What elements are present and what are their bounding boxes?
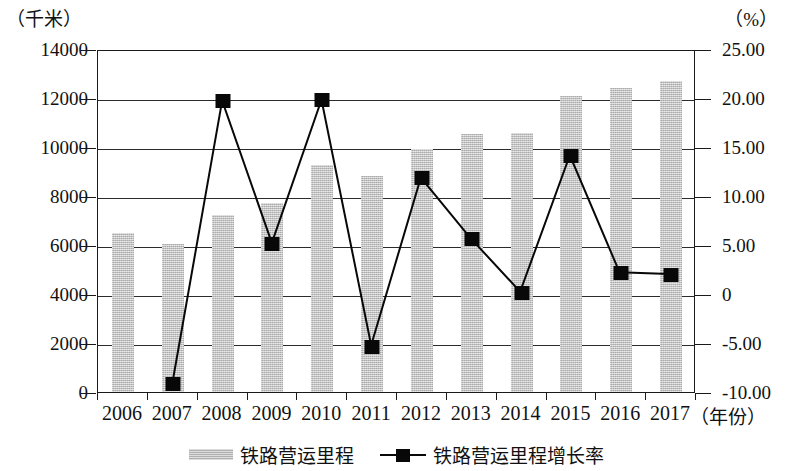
bar <box>560 96 582 392</box>
plot-area <box>97 50 695 393</box>
right-axis-tick-mark <box>695 344 711 345</box>
data-point-marker <box>165 377 180 391</box>
legend-label: 铁路营运里程 <box>240 441 354 468</box>
data-point-marker <box>365 340 380 354</box>
right-axis-tick: 20.00 <box>722 89 765 108</box>
x-axis-tick-mark <box>396 393 397 400</box>
right-axis-tick: -10.00 <box>722 383 771 402</box>
data-point-marker <box>315 93 330 107</box>
bar <box>162 244 184 392</box>
bar <box>660 81 682 392</box>
chart-legend: 铁路营运里程铁路营运里程增长率 <box>0 441 792 468</box>
bar <box>610 88 632 392</box>
data-point-marker <box>215 94 230 108</box>
right-axis-tick: 5.00 <box>722 236 755 255</box>
left-axis-tick: 6000 <box>8 236 88 255</box>
x-axis-label: 2016 <box>600 402 640 425</box>
x-axis-label: 2008 <box>202 402 242 425</box>
data-point-marker <box>414 171 429 185</box>
left-axis-tick-mark <box>81 50 96 51</box>
x-axis-tick-mark <box>546 393 547 400</box>
x-axis-tick-mark <box>496 393 497 400</box>
bar <box>261 203 283 392</box>
left-axis-tick: 0 <box>8 383 88 402</box>
x-axis-labels: 2006200720082009201020112012201320142015… <box>0 402 792 432</box>
right-axis-tick-mark <box>695 197 711 198</box>
x-axis-tick-mark <box>97 393 98 400</box>
x-axis-label: 2013 <box>451 402 491 425</box>
x-axis-label: 2012 <box>401 402 441 425</box>
left-axis-tick-mark <box>81 197 96 198</box>
left-axis-tick-mark <box>81 148 96 149</box>
x-axis-label: 2015 <box>550 402 590 425</box>
left-axis-tick: 14000 <box>8 40 88 59</box>
data-point-marker <box>464 232 479 246</box>
left-axis-tick: 2000 <box>8 334 88 353</box>
x-axis-tick-mark <box>346 393 347 400</box>
x-axis-tick-mark <box>595 393 596 400</box>
left-axis-tick-mark <box>81 393 96 394</box>
bar-series <box>98 51 694 392</box>
left-axis-tick: 10000 <box>8 138 88 157</box>
x-axis-unit-label: （年份） <box>690 402 766 429</box>
right-axis-tick-mark <box>695 50 711 51</box>
bar <box>212 215 234 392</box>
railway-mileage-chart: （千米） （%） 0200040006000800010000120001400… <box>0 0 792 471</box>
data-point-marker <box>664 268 679 282</box>
right-axis-tick-labels: -10.00-5.0005.0010.0015.0020.0025.00 <box>700 0 792 471</box>
x-axis-label: 2007 <box>152 402 192 425</box>
right-axis-tick-mark <box>695 393 711 394</box>
x-axis-tick-mark <box>645 393 646 400</box>
left-axis-tick-mark <box>81 246 96 247</box>
x-axis-tick-mark <box>695 393 696 400</box>
legend-bar-swatch-icon <box>189 449 233 460</box>
legend-line-marker-icon <box>380 448 426 462</box>
x-axis-tick-mark <box>247 393 248 400</box>
left-axis-tick-mark <box>81 344 96 345</box>
x-axis-label: 2014 <box>501 402 541 425</box>
x-axis-label: 2009 <box>251 402 291 425</box>
x-axis-label: 2006 <box>102 402 142 425</box>
x-axis-tick-mark <box>296 393 297 400</box>
right-axis-tick: -5.00 <box>722 334 762 353</box>
right-axis-tick: 10.00 <box>722 187 765 206</box>
legend-label: 铁路营运里程增长率 <box>433 441 604 468</box>
left-axis-tick-mark <box>81 295 96 296</box>
bar <box>112 233 134 392</box>
right-axis-tick: 15.00 <box>722 138 765 157</box>
data-point-marker <box>265 237 280 251</box>
legend-item[interactable]: 铁路营运里程增长率 <box>380 441 604 468</box>
legend-item[interactable]: 铁路营运里程 <box>189 441 354 468</box>
x-axis-label: 2010 <box>301 402 341 425</box>
right-axis-tick-mark <box>695 295 711 296</box>
left-axis-tick-mark <box>81 99 96 100</box>
left-axis-tick: 12000 <box>8 89 88 108</box>
bar <box>361 176 383 392</box>
data-point-marker <box>564 149 579 163</box>
x-axis-label: 2011 <box>351 402 390 425</box>
left-axis-tick-labels: 02000400060008000100001200014000 <box>0 0 88 471</box>
left-axis-tick: 8000 <box>8 187 88 206</box>
data-point-marker <box>514 286 529 300</box>
bar <box>511 133 533 392</box>
right-axis-tick-mark <box>695 246 711 247</box>
data-point-marker <box>614 266 629 280</box>
right-axis-tick: 25.00 <box>722 40 765 59</box>
bar <box>461 134 483 392</box>
right-axis-tick: 0 <box>722 285 732 304</box>
left-axis-tick: 4000 <box>8 285 88 304</box>
right-axis-tick-mark <box>695 99 711 100</box>
x-axis-tick-mark <box>446 393 447 400</box>
bar <box>311 165 333 392</box>
right-axis-tick-mark <box>695 148 711 149</box>
x-axis-tick-mark <box>197 393 198 400</box>
x-axis-tick-mark <box>147 393 148 400</box>
x-axis-label: 2017 <box>650 402 690 425</box>
